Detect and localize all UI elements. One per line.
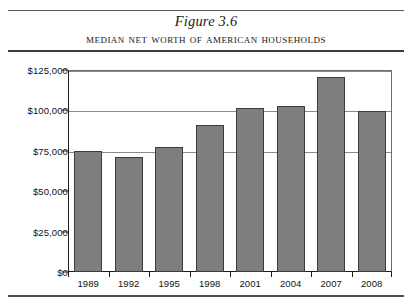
x-axis-label: 1989 [68, 278, 109, 289]
y-axis-label: $50,000 [6, 186, 68, 197]
rule-top [8, 10, 404, 11]
y-axis-label: $0 [6, 267, 68, 278]
x-axis-tick [190, 272, 191, 277]
rule-bottom [8, 295, 404, 297]
x-axis-label: 2004 [271, 278, 312, 289]
bar-series [68, 70, 392, 272]
y-axis-label: $25,000 [6, 226, 68, 237]
x-axis-slot: 2004 [271, 272, 312, 288]
y-axis-label: $100,000 [6, 105, 68, 116]
x-axis-tick [311, 272, 312, 277]
x-axis-tick [68, 272, 69, 277]
bar-slot [109, 70, 150, 272]
figure-title: Median Net Worth of American Households [0, 30, 412, 47]
x-axis-slot: 2007 [311, 272, 352, 288]
x-axis-label: 1998 [190, 278, 231, 289]
x-axis: 19891992199519982001200420072008 [68, 272, 392, 288]
bar [74, 151, 102, 272]
y-axis: $0$25,000$50,000$75,000$100,000$125,000 [0, 56, 68, 288]
x-axis-slot: 1998 [190, 272, 231, 288]
bar-slot [68, 70, 109, 272]
bar-slot [230, 70, 271, 272]
bar-slot [149, 70, 190, 272]
x-axis-label: 2001 [230, 278, 271, 289]
bar [277, 106, 305, 272]
x-axis-slot: 2008 [352, 272, 393, 288]
x-axis-slot: 1992 [109, 272, 150, 288]
chart-plot: $0$25,000$50,000$75,000$100,000$125,000 … [0, 56, 412, 288]
rule-under-title [8, 50, 404, 52]
x-axis-label: 1992 [109, 278, 150, 289]
x-axis-label: 1995 [149, 278, 190, 289]
x-axis-tick [391, 272, 392, 277]
x-axis-slot: 1989 [68, 272, 109, 288]
y-axis-label: $75,000 [6, 145, 68, 156]
x-axis-tick [109, 272, 110, 277]
bar [155, 147, 183, 272]
bar-slot [271, 70, 312, 272]
x-axis-slot: 1995 [149, 272, 190, 288]
bar-slot [311, 70, 352, 272]
x-axis-slot: 2001 [230, 272, 271, 288]
bar [196, 125, 224, 272]
figure-number: Figure 3.6 [0, 13, 412, 30]
x-axis-label: 2008 [352, 278, 393, 289]
x-axis-label: 2007 [311, 278, 352, 289]
figure-container: Figure 3.6 Median Net Worth of American … [0, 0, 412, 307]
bar-slot [352, 70, 393, 272]
x-axis-tick [352, 272, 353, 277]
bar [115, 157, 143, 272]
bar-slot [190, 70, 231, 272]
y-axis-label: $125,000 [6, 65, 68, 76]
bar [358, 111, 386, 272]
x-axis-tick [230, 272, 231, 277]
x-axis-tick [149, 272, 150, 277]
x-axis-tick [271, 272, 272, 277]
bar [317, 77, 345, 272]
figure-heading: Figure 3.6 Median Net Worth of American … [0, 13, 412, 47]
bar [236, 108, 264, 272]
